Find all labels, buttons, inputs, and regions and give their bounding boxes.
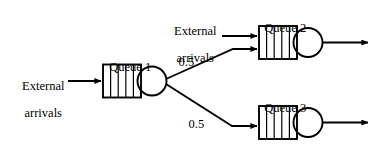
external-arrivals-top-line1: External <box>174 24 216 38</box>
queue3-label-text: Queue 3 <box>264 101 306 115</box>
queueing-network-diagram: External arrivals Queue 1 External arriv… <box>0 0 372 155</box>
branch-probability-upper-label: 0.5 <box>166 42 192 83</box>
branch-probability-lower-label: 0.5 <box>176 104 202 145</box>
external-arrivals-left-line1: External <box>22 79 64 93</box>
queue2-label-text: Queue 2 <box>264 21 306 35</box>
queue1-label: Queue 1 <box>96 47 152 88</box>
branch-probability-lower-text: 0.5 <box>189 117 205 131</box>
external-arrivals-left-line2: arrivals <box>25 106 62 120</box>
queue3-label: Queue 3 <box>251 88 307 129</box>
queue1-label-text: Queue 1 <box>109 60 151 74</box>
queue2-label: Queue 2 <box>251 8 307 49</box>
branch-probability-upper-text: 0.5 <box>179 55 195 69</box>
external-arrivals-left-label: External arrivals <box>4 66 70 134</box>
